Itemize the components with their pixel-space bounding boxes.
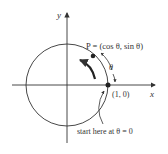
start-point-label: (1, 0)	[112, 90, 130, 99]
x-axis-label: x	[149, 89, 154, 99]
unit-circle-diagram: y x P = (cos θ, sin θ) θ (1, 0) start he…	[0, 0, 168, 154]
point-p	[91, 54, 96, 59]
theta-arc-lower-arrow-icon	[113, 74, 115, 82]
point-p-label: P = (cos θ, sin θ)	[86, 41, 143, 51]
rotation-arrow-icon	[80, 60, 95, 79]
theta-label: θ	[109, 63, 113, 72]
start-annotation: start here at θ = 0	[77, 127, 133, 136]
y-axis-label: y	[56, 10, 61, 20]
point-start	[106, 83, 111, 88]
